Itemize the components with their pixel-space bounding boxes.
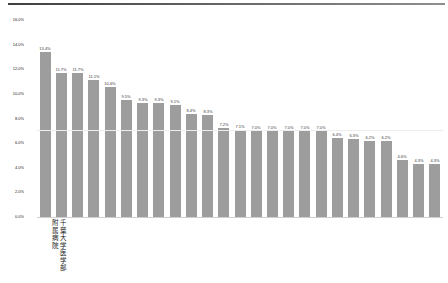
- bar-value-label: 7.2%: [216, 123, 231, 128]
- bar: [251, 131, 262, 217]
- bar: [105, 87, 116, 218]
- y-axis-tick-label: 10.0%: [12, 91, 24, 96]
- bar-value-label: 6.3%: [346, 134, 361, 139]
- bar-value-label: 4.3%: [411, 159, 426, 164]
- bar-value-label: 11.7%: [54, 67, 69, 72]
- y-axis-tick-label: 16.0%: [12, 18, 24, 23]
- y-axis-tick-label: 0.0%: [12, 215, 24, 220]
- bar-value-label: 10.6%: [103, 81, 118, 86]
- bar-value-label: 6.2%: [379, 135, 394, 140]
- bar-value-label: 11.1%: [86, 75, 101, 80]
- bar: [299, 131, 310, 217]
- bar-value-label: 7.1%: [233, 124, 248, 129]
- plot-area: 13.4%11.7%11.7%11.1%10.6%9.5%9.3%9.3%9.1…: [37, 20, 443, 218]
- bar: [348, 139, 359, 217]
- bar: [72, 73, 83, 217]
- bar-value-label: 8.3%: [200, 109, 215, 114]
- bar-value-label: 9.1%: [168, 99, 183, 104]
- y-axis-tick-label: 8.0%: [12, 116, 24, 121]
- bar-chart: 13.4%11.7%11.7%11.1%10.6%9.5%9.3%9.3%9.1…: [0, 0, 448, 283]
- reference-line: [37, 130, 443, 131]
- bar: [381, 141, 392, 217]
- bar-value-label: 13.4%: [38, 47, 53, 52]
- bar: [267, 131, 278, 217]
- bar-value-label: 9.5%: [119, 95, 134, 100]
- bar-value-label: 4.3%: [427, 159, 442, 164]
- bar: [316, 131, 327, 217]
- bar: [40, 52, 51, 217]
- y-axis-tick-label: 14.0%: [12, 42, 24, 47]
- bar-value-label: 11.7%: [70, 67, 85, 72]
- y-axis-tick-label: 4.0%: [12, 165, 24, 170]
- bar: [218, 128, 229, 217]
- bar-value-label: 6.4%: [330, 133, 345, 138]
- bar: [170, 105, 181, 217]
- y-axis-tick-label: 12.0%: [12, 67, 24, 72]
- bar: [153, 103, 164, 218]
- bar-value-label: 9.3%: [151, 97, 166, 102]
- y-axis-tick-label: 6.0%: [12, 141, 24, 146]
- bar: [397, 160, 408, 217]
- top-border-line: [8, 3, 445, 5]
- bar: [364, 141, 375, 217]
- bar: [137, 103, 148, 218]
- bar: [121, 100, 132, 217]
- x-axis-category-label: 千葉大学医学部附属病院: [51, 219, 66, 273]
- bar-value-label: 4.6%: [395, 155, 410, 160]
- bar: [88, 80, 99, 217]
- bar: [429, 164, 440, 217]
- bar-value-label: 6.2%: [362, 135, 377, 140]
- bar: [283, 131, 294, 217]
- bar: [413, 164, 424, 217]
- bar: [235, 130, 246, 217]
- bar: [56, 73, 67, 217]
- bar-value-label: 8.4%: [184, 108, 199, 113]
- bar: [332, 138, 343, 217]
- bar-value-label: 9.3%: [135, 97, 150, 102]
- y-axis-tick-label: 2.0%: [12, 190, 24, 195]
